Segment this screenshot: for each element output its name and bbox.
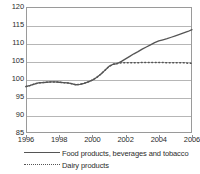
x-tick [126, 135, 127, 138]
y-tick-label: 105 [0, 57, 24, 65]
x-tick [59, 135, 60, 138]
x-axis-labels: 199619982000200220042006 [0, 135, 200, 147]
y-tick-label: 90 [0, 111, 24, 119]
y-tick-label: 100 [0, 75, 24, 83]
legend-key-solid-icon [22, 148, 62, 158]
legend-label-food: Food products, beverages and tobacco [62, 149, 189, 158]
y-tick-label: 120 [0, 3, 24, 11]
legend-label-dairy: Dairy products [62, 161, 109, 170]
y-axis-labels: 859095100105110115120 [0, 0, 24, 140]
line-chart: 859095100105110115120 199619982000200220… [0, 0, 200, 174]
legend-key-dotted-icon [22, 160, 62, 170]
legend-item-food: Food products, beverages and tobacco [0, 147, 200, 159]
series-layer [26, 7, 192, 133]
x-tick [92, 135, 93, 138]
x-tick [26, 135, 27, 138]
y-tick-label: 110 [0, 39, 24, 47]
series-line-food [26, 30, 192, 87]
legend-item-dairy: Dairy products [0, 159, 200, 171]
x-tick-label: 2006 [177, 135, 200, 144]
chart-legend: Food products, beverages and tobacco Dai… [0, 147, 200, 171]
x-tick [159, 135, 160, 138]
y-tick-label: 115 [0, 21, 24, 29]
x-tick [192, 135, 193, 138]
y-tick-label: 95 [0, 93, 24, 101]
